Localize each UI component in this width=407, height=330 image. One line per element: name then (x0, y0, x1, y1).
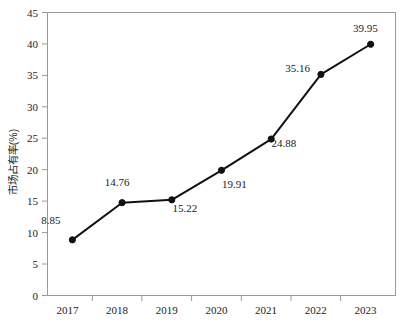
data-label: 39.95 (353, 22, 378, 34)
y-tick-label: 25 (27, 132, 39, 144)
y-tick-label: 40 (27, 38, 39, 50)
data-label: 8.85 (41, 214, 61, 226)
x-tick-label: 2023 (354, 304, 377, 316)
data-point-marker (69, 237, 75, 243)
y-tick-label: 35 (27, 69, 39, 81)
x-tick-label: 2021 (255, 304, 277, 316)
y-tick-label: 20 (27, 164, 39, 176)
data-label: 15.22 (173, 202, 198, 214)
data-point-labels: 8.85 14.76 15.22 19.91 24.88 35.16 39.95 (41, 22, 378, 226)
x-tick-label: 2018 (106, 304, 129, 316)
data-point-marker (119, 200, 125, 206)
y-axis-tick-labels: 45 40 35 30 25 20 15 10 5 0 (27, 7, 39, 302)
line-chart: 45 40 35 30 25 20 15 10 5 0 市场占有率(%) 201… (0, 0, 407, 330)
y-tick-label: 30 (27, 101, 39, 113)
y-tick-label: 0 (33, 290, 39, 302)
x-axis-tick-labels: 2017 2018 2019 2020 2021 2022 2023 (56, 304, 377, 316)
series-markers (69, 41, 373, 243)
y-tick-label: 5 (33, 258, 39, 270)
y-axis-ticks (42, 13, 48, 296)
data-label: 24.88 (272, 137, 297, 149)
chart-canvas: 45 40 35 30 25 20 15 10 5 0 市场占有率(%) 201… (0, 0, 407, 330)
x-tick-label: 2017 (56, 304, 79, 316)
y-tick-label: 10 (27, 227, 39, 239)
x-axis-ticks (92, 296, 340, 302)
plot-area-frame (48, 13, 396, 296)
data-label: 35.16 (285, 62, 310, 74)
data-point-marker (218, 167, 224, 173)
data-label: 19.91 (222, 178, 247, 190)
y-tick-label: 45 (27, 7, 39, 19)
series-line (72, 44, 370, 240)
y-tick-label: 15 (27, 195, 39, 207)
y-axis-title: 市场占有率(%) (7, 129, 19, 195)
data-label: 14.76 (105, 176, 130, 188)
data-point-marker (318, 71, 324, 77)
x-tick-label: 2020 (205, 304, 228, 316)
x-tick-label: 2019 (156, 304, 179, 316)
x-tick-label: 2022 (305, 304, 327, 316)
data-point-marker (368, 41, 374, 47)
